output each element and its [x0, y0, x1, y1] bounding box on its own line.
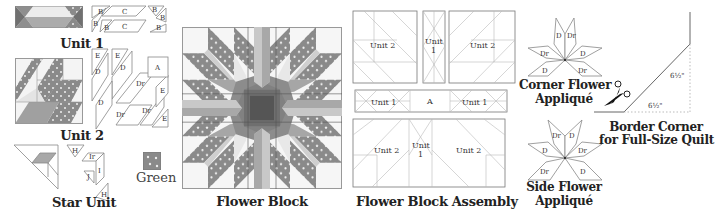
assembly-graphic: Unit 2 Unit 1 Unit 2 Unit 1 A Unit 1 Uni… — [352, 10, 520, 190]
assembly-label-1: 1 — [418, 150, 423, 159]
flower-block-diagram — [182, 27, 342, 189]
green-swatch-label: Green — [136, 170, 176, 185]
piece-dr-label: Dr — [540, 50, 550, 58]
piece-e-label: E — [115, 52, 120, 60]
unit1-pieced-strip — [15, 6, 83, 28]
piece-dr-label: Dr — [578, 67, 588, 75]
unit2-pieced-block — [15, 58, 83, 124]
piece-e-label: E — [162, 115, 167, 123]
assembly-label-unit: Unit — [425, 37, 443, 46]
piece-d-label: D — [98, 99, 104, 107]
piece-dr-label: Dr — [116, 111, 126, 119]
piece-b-label: B — [156, 24, 161, 32]
piece-j-label: J — [86, 173, 90, 181]
green-swatch-graphic — [143, 152, 161, 170]
piece-d-label: D — [556, 32, 562, 40]
assembly-caption: Flower Block Assembly — [356, 194, 516, 209]
flower-block-caption: Flower Block — [212, 194, 312, 209]
unit2-pieces-diagram: E E D D D Dr Dr Dr E E A — [86, 47, 176, 132]
piece-c-label: C — [122, 8, 127, 16]
piece-b-label: B — [104, 24, 109, 32]
star-unit-caption: Star Unit — [48, 195, 120, 210]
side-flower-graphic: Dr D D Dr Dr D — [522, 118, 608, 184]
vertical-dimension-label: 6½" — [670, 72, 684, 80]
piece-dr-label: Dr — [142, 107, 152, 115]
piece-d-label: D — [120, 64, 126, 72]
piece-d-label: D — [542, 147, 548, 155]
star-unit-diagram: H Ir I J H — [12, 143, 122, 203]
piece-h-label: H — [72, 147, 78, 155]
piece-b-label: B — [152, 6, 157, 14]
border-corner-caption-line2: for Full-Size Quilt — [598, 133, 715, 147]
assembly-label-unit1: Unit 1 — [371, 98, 396, 107]
assembly-label-unit2: Unit 2 — [456, 146, 481, 155]
piece-d-label: D — [569, 132, 575, 140]
border-corner-graphic: 6½" 6½" — [590, 8, 715, 120]
piece-dr-label: Dr — [552, 132, 562, 140]
assembly-label-unit2: Unit 2 — [370, 41, 395, 50]
side-flower-caption-line1: Side Flower — [519, 180, 609, 194]
piece-e-label: E — [95, 52, 100, 60]
piece-b-label: B — [93, 20, 98, 28]
star-unit-graphic: H Ir I J H — [12, 143, 122, 203]
piece-d-label: D — [95, 68, 101, 76]
side-flower-caption-line2: Appliqué — [519, 194, 609, 208]
unit2-pieces-graphic: E E D D D Dr Dr Dr E E A — [86, 47, 176, 132]
piece-dr-label: Dr — [567, 32, 577, 40]
unit1-pieces-graphic: B B C B B B C B — [90, 4, 168, 34]
border-corner-diagram: 6½" 6½" — [590, 8, 715, 120]
piece-a-label: A — [154, 64, 161, 72]
flower-block-assembly-diagram: Unit 2 Unit 1 Unit 2 Unit 1 A Unit 1 Uni… — [352, 10, 520, 190]
unit2-caption: Unit 2 — [52, 128, 112, 143]
piece-b-label: B — [98, 8, 103, 16]
unit1-strip-graphic — [15, 6, 83, 28]
piece-dr-label: Dr — [136, 80, 146, 88]
piece-c-label: C — [122, 23, 127, 31]
assembly-label-unit1: Unit 1 — [462, 98, 487, 107]
assembly-label-unit: Unit — [412, 141, 430, 150]
assembly-label-1: 1 — [431, 46, 436, 55]
assembly-label-unit2: Unit 2 — [374, 146, 399, 155]
piece-dr-label: Dr — [578, 147, 588, 155]
scissors-icon — [604, 81, 630, 106]
piece-d-label: D — [580, 168, 586, 176]
piece-i-label: I — [98, 167, 101, 175]
green-fabric-swatch — [143, 152, 161, 170]
side-flower-diagram: Dr D D Dr Dr D — [522, 118, 608, 184]
flower-block-graphic — [182, 27, 342, 189]
border-corner-caption-line1: Border Corner — [606, 120, 706, 134]
piece-ir-label: Ir — [89, 153, 96, 161]
horizontal-dimension-label: 6½" — [648, 102, 662, 110]
piece-e-label: E — [160, 87, 165, 95]
assembly-label-a: A — [426, 97, 433, 106]
piece-dr-label: Dr — [540, 168, 550, 176]
piece-d-label: D — [580, 50, 586, 58]
unit1-pieces-diagram: B B C B B B C B — [90, 4, 168, 34]
piece-b-label: B — [160, 14, 165, 22]
piece-d-label: D — [542, 67, 548, 75]
assembly-label-unit2: Unit 2 — [470, 41, 495, 50]
unit2-block-graphic — [15, 58, 83, 124]
